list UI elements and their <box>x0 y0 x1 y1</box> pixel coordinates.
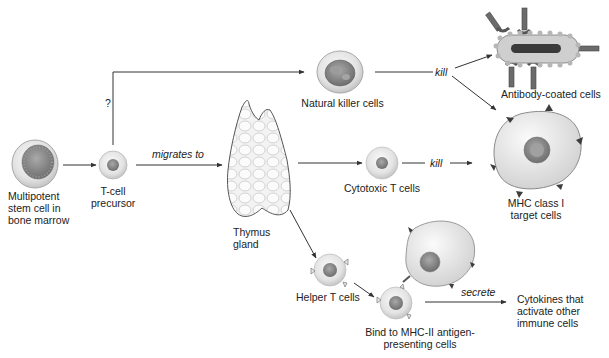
label-cytotoxic-t-cells: Cytotoxic T cells <box>337 182 427 194</box>
t-cell-precursor-icon <box>99 151 127 179</box>
antigen-presenting-cell-icon <box>406 221 475 289</box>
arrow-kill-to-mhc1 <box>452 76 496 110</box>
arrow-kill-to-antibody <box>455 55 492 68</box>
label-thymus-gland: Thymus gland <box>233 226 270 250</box>
label-cytokines: Cytokines that activate other immune cel… <box>517 293 584 329</box>
edge-label-question: ? <box>105 97 111 109</box>
label-stem-cell: Multipotent stem cell in bone marrow <box>8 190 69 226</box>
bound-helper-t-cell-icon <box>377 276 412 319</box>
edge-label-kill-cytotoxic: kill <box>430 157 442 169</box>
thymus-gland-icon <box>227 100 290 216</box>
edge-label-kill-nk: kill <box>435 66 447 78</box>
stem-cell-icon <box>12 140 58 188</box>
label-t-cell-precursor: T-cell precursor <box>91 185 135 209</box>
antibody-coated-cell-icon <box>486 8 599 89</box>
helper-t-cell-icon <box>311 254 348 287</box>
label-antibody-coated-cells: Antibody-coated cells <box>501 88 601 100</box>
label-helper-t-cells: Helper T cells <box>296 291 360 303</box>
edge-label-secrete: secrete <box>461 286 495 298</box>
edge-label-migrates-to: migrates to <box>152 148 204 160</box>
arrow-thymus-to-helper <box>290 210 316 258</box>
label-natural-killer-cells: Natural killer cells <box>295 97 390 109</box>
cytotoxic-t-cell-icon <box>366 147 398 179</box>
mhc-class-i-target-cell-icon <box>490 104 583 198</box>
natural-killer-cell-icon <box>317 51 363 93</box>
label-bind-mhc-ii-apc: Bind to MHC-II antigen- presenting cells <box>360 326 480 350</box>
label-mhc-class-i-target-cells: MHC class I target cells <box>506 197 566 221</box>
